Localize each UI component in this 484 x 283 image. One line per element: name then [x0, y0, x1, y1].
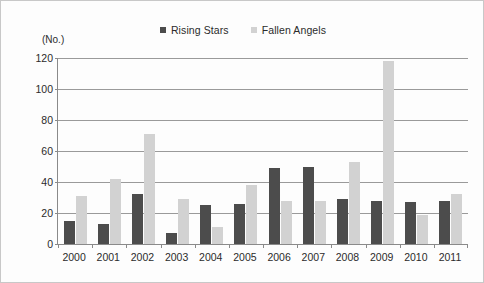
bar-chart-figure: Rising Stars Fallen Angels (No.) 0204060… — [0, 0, 484, 283]
y-tick-label: 20 — [41, 207, 53, 219]
bar-2008-rising-stars — [337, 199, 348, 244]
bar-group-2002 — [126, 58, 160, 244]
x-tick-mark — [92, 244, 93, 248]
bar-2001-rising-stars — [98, 224, 109, 244]
x-tick-mark — [297, 244, 298, 248]
x-tick-label-2002: 2002 — [125, 251, 159, 263]
x-tick-mark — [195, 244, 196, 248]
x-tick-label-2010: 2010 — [399, 251, 433, 263]
x-tick-label-2000: 2000 — [57, 251, 91, 263]
legend-swatch-fallen-angels — [251, 27, 257, 33]
y-tick-label: 100 — [35, 83, 53, 95]
x-tick-mark — [229, 244, 230, 248]
bar-2001-fallen-angels — [110, 179, 121, 244]
bar-2008-fallen-angels — [349, 162, 360, 244]
bar-group-2001 — [92, 58, 126, 244]
bar-group-2000 — [58, 58, 92, 244]
bar-2007-fallen-angels — [315, 201, 326, 244]
bar-2003-rising-stars — [166, 233, 177, 244]
bar-group-2006 — [263, 58, 297, 244]
bar-group-2005 — [229, 58, 263, 244]
x-tick-mark — [331, 244, 332, 248]
bars-layer — [58, 58, 468, 244]
y-tick-label: 120 — [35, 52, 53, 64]
bar-2005-rising-stars — [234, 204, 245, 244]
x-tick-label-2001: 2001 — [91, 251, 125, 263]
bar-2000-rising-stars — [64, 221, 75, 244]
bar-2004-rising-stars — [200, 205, 211, 244]
x-tick-mark — [58, 244, 59, 248]
x-tick-mark — [467, 244, 468, 248]
legend-label-rising-stars: Rising Stars — [171, 24, 229, 36]
bar-group-2009 — [366, 58, 400, 244]
bar-2009-fallen-angels — [383, 61, 394, 244]
bar-2011-fallen-angels — [451, 194, 462, 244]
bar-group-2010 — [400, 58, 434, 244]
y-tick-label: 60 — [41, 145, 53, 157]
bar-2010-rising-stars — [405, 202, 416, 244]
bar-2003-fallen-angels — [178, 199, 189, 244]
x-tick-label-2005: 2005 — [228, 251, 262, 263]
y-tick-label: 40 — [41, 176, 53, 188]
legend-label-fallen-angels: Fallen Angels — [262, 24, 326, 36]
x-axis-labels: 2000200120022003200420052006200720082009… — [57, 251, 467, 263]
bar-group-2007 — [297, 58, 331, 244]
chart-legend: Rising Stars Fallen Angels — [1, 23, 484, 37]
bar-group-2008 — [331, 58, 365, 244]
x-tick-label-2006: 2006 — [262, 251, 296, 263]
x-tick-mark — [161, 244, 162, 248]
bar-group-2004 — [195, 58, 229, 244]
y-tick-label: 80 — [41, 114, 53, 126]
bar-2005-fallen-angels — [246, 185, 257, 244]
y-axis-unit-label: (No.) — [42, 34, 64, 45]
y-tick-label: 0 — [47, 238, 53, 250]
x-tick-label-2008: 2008 — [330, 251, 364, 263]
bar-group-2011 — [434, 58, 468, 244]
bar-2002-rising-stars — [132, 194, 143, 244]
legend-item-fallen-angels: Fallen Angels — [251, 24, 326, 36]
bar-2009-rising-stars — [371, 201, 382, 244]
x-tick-label-2007: 2007 — [296, 251, 330, 263]
x-tick-mark — [126, 244, 127, 248]
bar-2000-fallen-angels — [76, 196, 87, 244]
x-tick-mark — [366, 244, 367, 248]
bar-group-2003 — [161, 58, 195, 244]
bar-2004-fallen-angels — [212, 227, 223, 244]
bar-2007-rising-stars — [303, 167, 314, 245]
x-tick-label-2003: 2003 — [160, 251, 194, 263]
bar-2006-rising-stars — [269, 168, 280, 244]
bar-2011-rising-stars — [439, 201, 450, 244]
x-tick-mark — [400, 244, 401, 248]
bar-2006-fallen-angels — [281, 201, 292, 244]
x-tick-mark — [434, 244, 435, 248]
x-tick-mark — [263, 244, 264, 248]
legend-item-rising-stars: Rising Stars — [160, 24, 229, 36]
plot-area: 020406080100120 — [57, 58, 468, 245]
x-tick-label-2011: 2011 — [433, 251, 467, 263]
x-tick-label-2009: 2009 — [365, 251, 399, 263]
bar-2010-fallen-angels — [417, 215, 428, 244]
bar-2002-fallen-angels — [144, 134, 155, 244]
x-tick-label-2004: 2004 — [194, 251, 228, 263]
legend-swatch-rising-stars — [160, 27, 166, 33]
